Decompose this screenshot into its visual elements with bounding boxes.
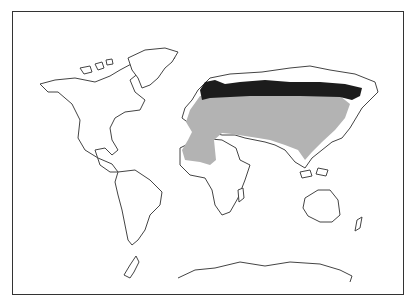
antarctic-peninsula [124,256,139,278]
range-light-area [182,96,350,165]
greenland [128,48,178,88]
arctic-islands [80,59,113,74]
antarctica [178,262,352,282]
australia [303,190,340,222]
se-asia-islands [300,168,328,178]
south-america [115,170,162,245]
new-zealand [355,217,362,231]
world-map [0,0,414,307]
madagascar [238,188,244,202]
